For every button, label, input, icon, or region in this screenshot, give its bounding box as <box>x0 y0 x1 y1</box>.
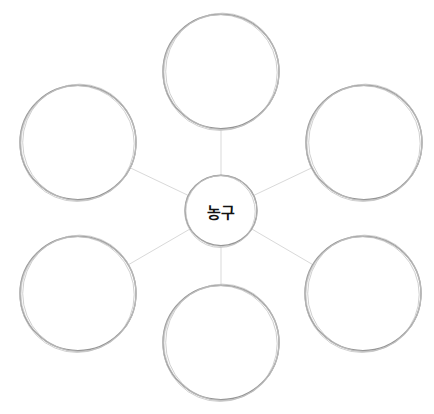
bubble-node-upper-left <box>20 84 137 201</box>
connector-line-upper-left <box>130 168 188 196</box>
connector-line-lower-left <box>128 229 190 265</box>
bubble-node-bottom <box>163 284 279 401</box>
bubble-node-lower-left <box>20 235 137 352</box>
bubble-node-upper-right <box>306 84 423 201</box>
center-label: 농구 <box>207 201 235 222</box>
bubble-node-top <box>163 13 279 130</box>
connector-line-upper-right <box>254 168 312 196</box>
connector-line-lower-right <box>252 229 313 265</box>
bubble-node-lower-right <box>305 235 422 352</box>
